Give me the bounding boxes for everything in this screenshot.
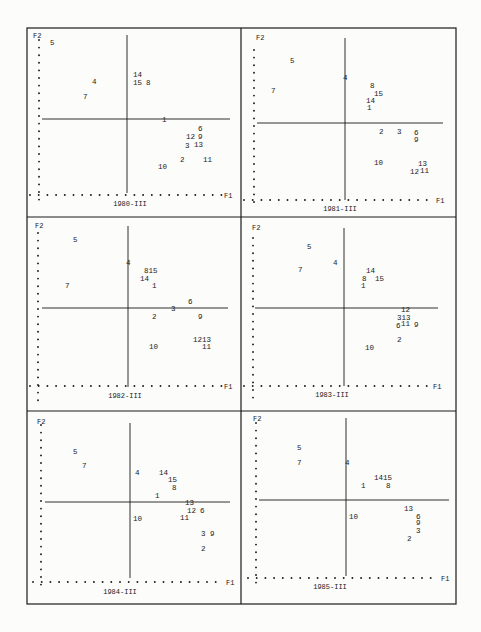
point-label: 4	[343, 74, 348, 82]
f1-dotted-axis	[29, 194, 222, 196]
point-label: 11	[420, 167, 430, 175]
point-label: 5	[290, 57, 295, 65]
point-label: 7	[298, 266, 303, 274]
point-label: 11	[401, 320, 411, 328]
point-label: 1	[152, 282, 157, 290]
point-label: 10	[365, 344, 375, 352]
point-label: 2	[407, 535, 412, 543]
point-label: 1	[162, 116, 167, 124]
point-label: 9	[198, 313, 203, 321]
point-label: 12	[401, 306, 410, 314]
factor-map-grid: F2F11980-III514158471612931321110F2F1198…	[0, 0, 481, 632]
point-label: 12	[186, 133, 195, 141]
point-label: 12	[410, 168, 419, 176]
f1-dotted-axis	[243, 199, 428, 201]
point-label: 9	[210, 530, 215, 538]
f1-dotted-axis	[32, 581, 217, 583]
f2-dotted-axis	[252, 237, 254, 398]
f2-axis-label: F2	[33, 32, 41, 40]
point-label: 815	[144, 267, 158, 275]
point-label: 5	[297, 444, 302, 452]
panel-title: 1982-III	[108, 392, 142, 400]
f1-axis-label: F1	[224, 192, 232, 200]
point-label: 5	[73, 448, 78, 456]
point-label: 9	[414, 136, 419, 144]
point-label: 6	[198, 125, 203, 133]
f2-axis-label: F2	[256, 34, 264, 42]
point-label: 6	[188, 298, 193, 306]
point-label: 5	[50, 39, 55, 47]
f2-axis-label: F2	[37, 418, 45, 426]
point-label: 13	[194, 141, 204, 149]
point-label: 1	[367, 104, 372, 112]
point-label: 11	[180, 514, 190, 522]
point-label: 8	[146, 79, 151, 87]
point-label: 15	[168, 476, 178, 484]
point-label: 9	[414, 321, 419, 329]
point-label: 1	[155, 492, 160, 500]
point-label: 4	[345, 459, 350, 467]
f1-axis-label: F1	[224, 383, 232, 391]
f1-dotted-axis	[247, 577, 432, 579]
point-label: 8	[370, 82, 375, 90]
point-label: 3	[185, 142, 190, 150]
panel-1985-iii: F2F11985-III57414151813106932	[247, 415, 449, 591]
point-label: 3	[416, 527, 421, 535]
point-label: 10	[133, 515, 143, 523]
point-label: 4	[333, 259, 338, 267]
point-label: 14	[133, 71, 143, 79]
point-label: 7	[297, 459, 302, 467]
point-label: 8	[172, 484, 177, 492]
point-label: 1	[361, 282, 366, 290]
point-label: 14	[366, 267, 376, 275]
panel-1982-iii: F2F11982-III548151417632912131011	[29, 222, 232, 401]
point-label: 6	[200, 507, 205, 515]
point-label: 7	[271, 87, 276, 95]
point-label: 13	[185, 499, 195, 507]
panel-title: 1983-III	[315, 391, 349, 399]
point-label: 2	[180, 156, 185, 164]
point-label: 11	[203, 156, 213, 164]
f2-dotted-axis	[253, 49, 255, 203]
panels: F2F11980-III514158471612931321110F2F1198…	[29, 32, 449, 596]
point-label: 15	[375, 275, 385, 283]
point-label: 2	[397, 336, 402, 344]
panel-title: 1985-III	[313, 583, 347, 591]
point-label: 15	[133, 79, 143, 87]
panel-title: 1981-III	[323, 205, 357, 213]
point-label: 5	[73, 236, 78, 244]
point-label: 4	[126, 259, 131, 267]
point-label: 1415	[374, 474, 393, 482]
f2-dotted-axis	[255, 422, 257, 584]
point-label: 4	[92, 78, 97, 86]
f1-dotted-axis	[243, 385, 428, 387]
point-label: 8	[386, 482, 391, 490]
panel-1983-iii: F2F11983-III547148151123136119210	[243, 224, 441, 399]
point-label: 9	[198, 133, 203, 141]
point-label: 2	[379, 128, 384, 136]
point-label: 5	[307, 243, 312, 251]
point-label: 10	[158, 163, 168, 171]
point-label: 1	[361, 482, 366, 490]
point-label: 2	[152, 313, 157, 321]
point-label: 3	[201, 530, 206, 538]
panel-1981-iii: F2F11981-III547815141236910131211	[243, 34, 444, 213]
f1-dotted-axis	[29, 385, 222, 387]
f2-axis-label: F2	[252, 224, 260, 232]
panel-1980-iii: F2F11980-III514158471612931321110	[29, 32, 232, 208]
point-label: 15	[374, 90, 384, 98]
point-label: 2	[201, 545, 206, 553]
f2-dotted-axis	[37, 232, 39, 401]
point-label: 4	[135, 469, 140, 477]
figure-stage: F2F11980-III514158471612931321110F2F1198…	[0, 0, 481, 632]
grid-frame	[27, 28, 456, 604]
point-label: 3	[397, 128, 402, 136]
point-label: 7	[82, 462, 87, 470]
point-label: 10	[349, 513, 359, 521]
point-label: 10	[374, 159, 384, 167]
f1-axis-label: F1	[436, 197, 444, 205]
f2-axis-label: F2	[35, 222, 43, 230]
point-label: 7	[83, 93, 88, 101]
point-label: 14	[140, 275, 150, 283]
f1-axis-label: F1	[441, 575, 449, 583]
